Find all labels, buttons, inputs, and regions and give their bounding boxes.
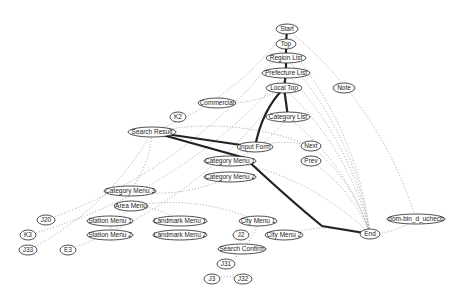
main-path-edges <box>152 29 370 234</box>
node-label: Prefecture List <box>265 69 307 76</box>
node-dom-bin[interactable]: dom-bin_d_uchecb <box>387 214 445 224</box>
node-landmark-menu-1[interactable]: Landmark Menu 1 <box>153 216 207 226</box>
node-search-result[interactable]: Search Result <box>128 127 176 137</box>
node-commercial[interactable]: Commercial <box>198 98 236 108</box>
node-label: J31 <box>221 260 232 267</box>
node-station-menu-2[interactable]: Station Menu 2 <box>87 230 133 240</box>
node-label: Top <box>281 40 292 48</box>
dotted-edge <box>287 29 416 219</box>
node-region-list[interactable]: Region List <box>266 53 306 63</box>
node-e3[interactable]: E3 <box>60 245 76 255</box>
node-label: Station Menu 1 <box>88 217 132 224</box>
node-label: Note <box>337 84 351 91</box>
node-j31[interactable]: J31 <box>217 259 235 269</box>
node-label: E3 <box>64 246 72 253</box>
node-label: dom-bin_d_uchecb <box>388 215 444 223</box>
node-label: J33 <box>23 246 34 253</box>
node-label: Category Menu 1 <box>205 157 255 165</box>
graph-diagram: StartTopRegion ListPrefecture ListLocal … <box>0 0 461 303</box>
node-label: J3 <box>209 275 216 282</box>
node-label: Search Result <box>132 128 173 135</box>
node-area-menu[interactable]: Area Menu <box>114 201 148 211</box>
node-category-list[interactable]: Category List <box>266 112 310 122</box>
node-city-menu-2[interactable]: City Menu 2 <box>265 230 303 240</box>
node-category-menu-2[interactable]: Category Menu 2 <box>204 172 256 182</box>
node-label: Prev <box>304 157 318 164</box>
node-prefecture-list[interactable]: Prefecture List <box>262 68 310 78</box>
node-label: Start <box>280 25 294 32</box>
node-category-menu-3[interactable]: Category Menu 3 <box>104 186 156 196</box>
node-label: K3 <box>24 231 32 238</box>
node-j3[interactable]: J3 <box>204 274 220 284</box>
node-next[interactable]: Next <box>301 141 321 151</box>
dotted-edge <box>286 73 370 234</box>
node-label: J20 <box>41 216 52 223</box>
node-label: Region List <box>270 54 303 62</box>
node-label: J2 <box>238 231 245 238</box>
node-k2[interactable]: K2 <box>170 112 186 122</box>
node-j2[interactable]: J2 <box>233 230 249 240</box>
node-search-confirm[interactable]: Search Confirm <box>218 244 266 254</box>
dotted-edge <box>28 73 286 235</box>
dotted-edge <box>130 132 152 191</box>
node-start[interactable]: Start <box>276 24 298 34</box>
node-label: Input Form <box>239 143 270 151</box>
node-end[interactable]: End <box>360 229 380 239</box>
node-label: City Menu 1 <box>241 217 276 225</box>
node-landmark-menu-2[interactable]: Landmark Menu 2 <box>153 230 207 240</box>
node-label: Area Menu <box>115 202 147 209</box>
dotted-edge <box>230 117 288 161</box>
node-label: Next <box>304 142 318 149</box>
node-label: Landmark Menu 1 <box>154 217 207 224</box>
node-label: Category Menu 3 <box>105 187 155 195</box>
node-label: Commercial <box>200 99 235 106</box>
node-category-menu-1[interactable]: Category Menu 1 <box>204 156 256 166</box>
node-label: Station Menu 2 <box>88 231 132 238</box>
node-label: J32 <box>238 275 249 282</box>
node-label: K2 <box>174 113 182 120</box>
node-note[interactable]: Note <box>333 83 355 93</box>
node-station-menu-1[interactable]: Station Menu 1 <box>87 216 133 226</box>
node-j33[interactable]: J33 <box>19 245 37 255</box>
node-local-top[interactable]: Local Top <box>266 83 302 93</box>
node-city-menu-1[interactable]: City Menu 1 <box>239 216 277 226</box>
node-label: End <box>364 230 376 237</box>
node-j32[interactable]: J32 <box>234 274 252 284</box>
node-top[interactable]: Top <box>276 39 296 49</box>
node-label: Search Confirm <box>219 245 264 252</box>
node-label: Category Menu 2 <box>205 173 255 181</box>
node-label: Category List <box>269 113 307 121</box>
node-prev[interactable]: Prev <box>301 156 321 166</box>
dotted-edges <box>28 29 416 279</box>
node-j20[interactable]: J20 <box>37 215 55 225</box>
node-label: Local Top <box>270 84 298 92</box>
node-label: Landmark Menu 2 <box>154 231 207 238</box>
node-k3[interactable]: K3 <box>20 230 36 240</box>
node-label: City Menu 2 <box>267 231 302 239</box>
node-input-form[interactable]: Input Form <box>237 142 273 152</box>
